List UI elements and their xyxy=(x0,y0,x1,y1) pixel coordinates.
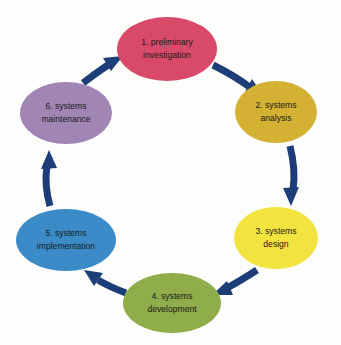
node-preliminary-investigation[interactable]: 1. preliminary investigation xyxy=(117,17,217,81)
node-systems-design[interactable]: 3. systems design xyxy=(234,207,318,269)
sdlc-cycle-diagram: 1. preliminary investigation 2. systems … xyxy=(0,0,341,345)
node-systems-maintenance[interactable]: 6. systems maintenance xyxy=(20,82,112,144)
node-shape-systems-development[interactable] xyxy=(123,273,221,333)
diagram-canvas: 1. preliminary investigation 2. systems … xyxy=(0,0,341,345)
node-shape-preliminary-investigation[interactable] xyxy=(117,17,217,81)
node-shape-systems-implementation[interactable] xyxy=(16,209,116,271)
node-shape-systems-design[interactable] xyxy=(234,207,318,269)
node-systems-implementation[interactable]: 5. systems implementation xyxy=(16,209,116,271)
arrow-5-to-6 xyxy=(41,150,57,206)
node-shape-systems-analysis[interactable] xyxy=(235,81,317,143)
node-systems-development[interactable]: 4. systems development xyxy=(123,273,221,333)
arrow-3-to-4 xyxy=(212,270,257,295)
arrow-4-to-5 xyxy=(84,270,126,293)
arrow-2-to-3 xyxy=(283,146,299,206)
node-systems-analysis[interactable]: 2. systems analysis xyxy=(235,81,317,143)
arrow-6-to-1 xyxy=(83,56,123,83)
node-shape-systems-maintenance[interactable] xyxy=(20,82,112,144)
